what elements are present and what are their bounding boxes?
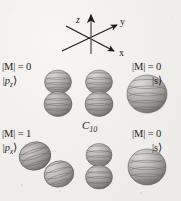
y-axis-line <box>62 25 117 51</box>
label-top-right-state: |s⟩ <box>152 75 162 87</box>
center-label-c10: C10 <box>82 119 97 134</box>
label-top-left-state: |pz⟩ <box>2 75 17 92</box>
label-bottom-left-state-pre: |p <box>2 142 10 153</box>
z-axis-label: z <box>76 14 80 26</box>
orbital-s-right-lower-shape <box>128 149 166 186</box>
label-bottom-right-m: |M| = 0 <box>132 128 161 140</box>
center-label-sub: 10 <box>89 125 97 134</box>
label-bottom-right-state: |s⟩ <box>152 142 162 154</box>
label-bottom-left-state-ket: ⟩ <box>13 142 17 153</box>
coordinate-axes <box>62 15 117 54</box>
orbital-pz-center-lower-shape <box>86 144 113 190</box>
orbital-px-left-shape <box>15 138 77 191</box>
y-axis-label: y <box>120 16 125 28</box>
x-axis-label: x <box>119 47 124 59</box>
label-top-left-m: |M| = 0 <box>2 61 31 73</box>
orbital-pz-left-shape <box>44 70 72 117</box>
label-top-right-m: |M| = 0 <box>132 61 161 73</box>
label-top-left-state-pre: |p <box>2 75 10 86</box>
label-bottom-left-state: |px⟩ <box>2 142 17 159</box>
figure-canvas: z y x |M| = 0 |pz⟩ |M| = 0 |s⟩ |M| = 1 |… <box>0 0 181 201</box>
label-top-left-state-ket: ⟩ <box>13 75 17 86</box>
label-bottom-left-m: |M| = 1 <box>2 128 31 140</box>
orbital-diagram-svg <box>0 0 181 201</box>
orbital-pz-center-shape <box>85 70 113 117</box>
